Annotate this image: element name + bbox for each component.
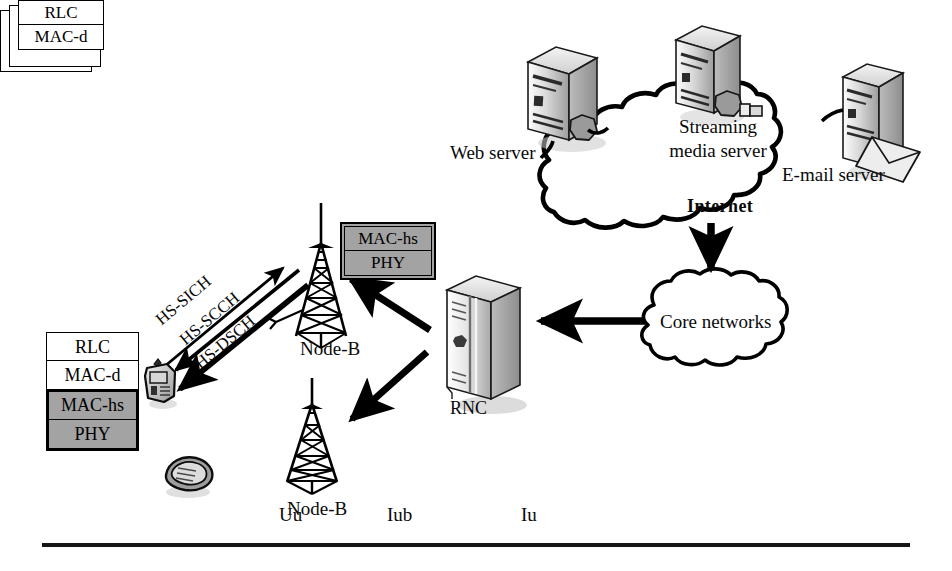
interface-label-uu: Uu <box>279 504 302 525</box>
rnc-layer-mac-d: MAC-d <box>18 24 104 50</box>
ue-protocol-stack: RLC MAC-d MAC-hs PHY <box>46 332 139 451</box>
interface-label-iub: Iub <box>387 504 412 525</box>
nodeb-protocol-stack: MAC-hs PHY <box>340 222 436 280</box>
nodeb-layer-mac-hs: MAC-hs <box>344 226 432 252</box>
streaming-media-server-icon <box>676 26 762 125</box>
mobile-phone-icon <box>145 359 177 409</box>
diagram-graphics-layer <box>0 0 952 571</box>
ue-layer-mac-d: MAC-d <box>46 360 139 390</box>
rnc-cabinet-icon <box>447 276 527 414</box>
upper-nodeb-label: Node-B <box>300 338 360 359</box>
web-server-icon <box>528 47 608 158</box>
network-architecture-figure: RLC MAC-d MAC-hs PHY MAC-hs PHY RLC MAC-… <box>0 0 952 571</box>
rnc-deck-card-front: RLC MAC-d <box>18 0 104 50</box>
flip-phone-icon <box>166 457 212 498</box>
upper-nodeb-tower-icon <box>268 203 346 348</box>
rnc-to-upper-nodeb-arrow <box>351 279 430 330</box>
ue-shaded-layers-group: MAC-hs PHY <box>46 389 139 451</box>
nodeb-layer-phy: PHY <box>344 250 432 276</box>
internet-cloud-label: Internet <box>687 196 753 216</box>
ue-layer-phy: PHY <box>48 419 137 449</box>
rnc-label: RNC <box>450 398 487 418</box>
streaming-media-server-label-line2: media server <box>648 140 788 161</box>
interface-label-iu: Iu <box>521 504 537 525</box>
core-networks-label: Core networks <box>660 311 771 332</box>
rnc-protocol-stack: RLC MAC-d <box>0 0 104 74</box>
rnc-to-lower-nodeb-arrow <box>352 352 427 419</box>
streaming-media-server-label-line1: Streaming <box>648 116 788 137</box>
rnc-layer-rlc: RLC <box>18 0 104 26</box>
web-server-label: Web server <box>450 142 536 163</box>
lower-nodeb-tower-icon <box>287 378 337 494</box>
ue-layer-rlc: RLC <box>46 332 139 362</box>
email-server-label: E-mail server <box>782 164 885 185</box>
figure-bottom-rule <box>42 543 910 547</box>
ue-layer-mac-hs: MAC-hs <box>48 391 137 421</box>
